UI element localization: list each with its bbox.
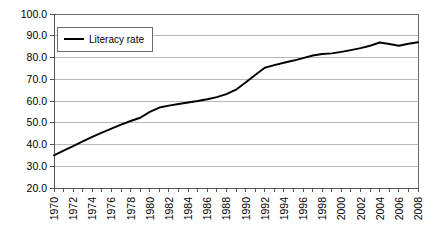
x-tick-label-2006: 2006 [393, 197, 405, 221]
y-tick-label-20: 20.0 [27, 182, 48, 194]
x-tick-label-1986: 1986 [201, 197, 213, 221]
x-tick-label-1972: 1972 [67, 197, 79, 221]
literacy-rate-line-chart: 100.090.080.070.060.050.040.030.020.0 19… [0, 0, 433, 249]
x-tick-label-1976: 1976 [105, 197, 117, 221]
y-tick-label-70: 70.0 [27, 73, 48, 85]
x-tick-label-1982: 1982 [163, 197, 175, 221]
x-tick-label-2004: 2004 [374, 197, 386, 221]
legend-label-literacy-rate: Literacy rate [89, 34, 144, 45]
x-tick-label-2008: 2008 [412, 197, 424, 221]
x-tick-label-1998: 1998 [316, 197, 328, 221]
x-tick-label-1984: 1984 [182, 197, 194, 221]
x-tick-label-2000: 2000 [335, 197, 347, 221]
chart-canvas: 100.090.080.070.060.050.040.030.020.0 19… [0, 0, 433, 249]
x-tick-label-2002: 2002 [355, 197, 367, 221]
y-tick-label-90: 90.0 [27, 29, 48, 41]
x-tick-label-1980: 1980 [144, 197, 156, 221]
x-tick-label-1970: 1970 [48, 197, 60, 221]
y-tick-label-50: 50.0 [27, 116, 48, 128]
x-tick-label-1996: 1996 [297, 197, 309, 221]
x-axis-ticks: 1970197219741976197819801982198419861988… [48, 188, 424, 220]
x-tick-label-1978: 1978 [125, 197, 137, 221]
y-tick-label-60: 60.0 [27, 95, 48, 107]
x-tick-label-1994: 1994 [278, 197, 290, 221]
y-tick-label-40: 40.0 [27, 138, 48, 150]
x-tick-label-1974: 1974 [86, 197, 98, 221]
y-axis-ticks: 100.090.080.070.060.050.040.030.020.0 [21, 8, 54, 194]
x-tick-label-1992: 1992 [259, 197, 271, 221]
y-tick-label-80: 80.0 [27, 51, 48, 63]
y-tick-label-30: 30.0 [27, 160, 48, 172]
chart-legend: Literacy rate [57, 27, 152, 51]
x-tick-label-1988: 1988 [220, 197, 232, 221]
y-tick-label-100: 100.0 [21, 8, 47, 20]
x-tick-label-1990: 1990 [240, 197, 252, 221]
